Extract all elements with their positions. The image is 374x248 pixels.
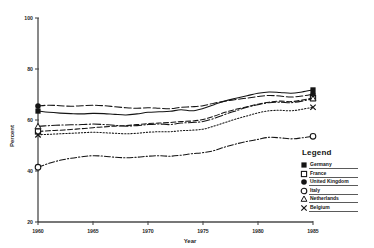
x-tick-label: 1975	[197, 228, 209, 234]
y-tick-label: 100	[24, 15, 33, 21]
legend-item-france[interactable]: France	[296, 170, 372, 178]
legend: Legend GermanyFranceUnited KingdomItalyN…	[296, 148, 372, 224]
legend-glyph	[301, 162, 306, 167]
legend-item-label: Germany	[309, 161, 358, 169]
legend-item-label: United Kingdom	[309, 178, 358, 186]
x-axis-title: Year	[184, 238, 197, 244]
y-axis-title: Percent	[9, 125, 15, 147]
legend-item-label: Belgium	[309, 204, 358, 212]
series-line-france	[38, 98, 313, 131]
legend-glyph	[301, 205, 306, 210]
y-tick-label: 20	[27, 219, 33, 225]
series-start-marker-germany	[35, 108, 40, 113]
legend-glyph	[301, 196, 307, 201]
legend-marker-filled-circle-icon	[300, 178, 309, 186]
axes-group	[38, 18, 313, 222]
legend-marker-filled-square-icon	[300, 161, 309, 169]
y-tick-label: 80	[27, 66, 33, 72]
series-end-marker-italy	[310, 134, 316, 140]
x-tick-label: 1965	[87, 228, 99, 234]
legend-item-label: France	[309, 170, 358, 178]
legend-item-united-kingdom[interactable]: United Kingdom	[296, 178, 372, 186]
x-axis-ticks: 196019651970197519801985	[32, 221, 319, 234]
legend-item-italy[interactable]: Italy	[296, 187, 372, 195]
x-tick-label: 1985	[307, 228, 319, 234]
y-tick-label: 60	[27, 117, 33, 123]
y-axis-ticks: 10080604020	[24, 15, 39, 225]
legend-item-netherlands[interactable]: Netherlands	[296, 195, 372, 203]
series-start-marker-italy	[35, 164, 41, 170]
legend-glyph	[301, 179, 307, 185]
data-series-group	[38, 90, 313, 167]
legend-item-label: Netherlands	[309, 195, 358, 203]
legend-marker-open-triangle-icon	[300, 195, 309, 203]
legend-title: Legend	[302, 148, 372, 157]
series-line-belgium	[38, 107, 313, 135]
chart-container: 10080604020 196019651970197519801985 Per…	[0, 0, 374, 248]
legend-item-belgium[interactable]: Belgium	[296, 204, 372, 212]
x-tick-label: 1970	[142, 228, 154, 234]
x-tick-label: 1960	[32, 228, 44, 234]
legend-marker-x-icon	[300, 204, 309, 212]
series-start-marker-united-kingdom	[35, 103, 41, 109]
legend-glyph	[301, 188, 307, 194]
series-line-italy	[38, 136, 313, 167]
y-tick-label: 40	[27, 168, 33, 174]
legend-item-label: Italy	[309, 187, 358, 195]
legend-glyph	[301, 171, 306, 176]
legend-marker-open-square-icon	[300, 170, 309, 178]
legend-marker-open-circle-icon	[300, 187, 309, 195]
x-tick-label: 1980	[252, 228, 264, 234]
legend-item-germany[interactable]: Germany	[296, 161, 372, 169]
